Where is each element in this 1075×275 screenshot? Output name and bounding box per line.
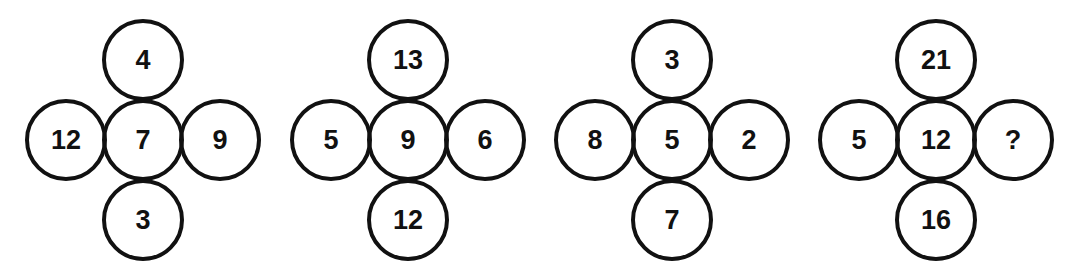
circle-right: 6 — [444, 99, 526, 181]
circle-value: 13 — [393, 45, 423, 76]
circle-value: 5 — [851, 125, 866, 156]
circle-value: 12 — [51, 125, 81, 156]
circle-bottom: 16 — [895, 179, 977, 261]
circle-value: 3 — [135, 205, 150, 236]
circle-right: 2 — [708, 99, 790, 181]
circle-value: 5 — [323, 125, 338, 156]
circle-left: 8 — [554, 99, 636, 181]
circle-right-unknown: ? — [972, 99, 1054, 181]
circle-left: 12 — [25, 99, 107, 181]
circle-value: 21 — [921, 45, 951, 76]
circle-value: 4 — [135, 45, 150, 76]
circle-value: 3 — [664, 45, 679, 76]
circle-value: 12 — [921, 125, 951, 156]
circle-top: 4 — [102, 19, 184, 101]
circle-value: 2 — [741, 125, 756, 156]
circle-right: 9 — [179, 99, 261, 181]
circle-value: 12 — [393, 205, 423, 236]
circle-value: 8 — [587, 125, 602, 156]
circle-value: 7 — [135, 125, 150, 156]
circle-left: 5 — [290, 99, 372, 181]
circle-top: 13 — [367, 19, 449, 101]
circle-center: 7 — [102, 99, 184, 181]
circle-center: 9 — [367, 99, 449, 181]
circle-value: 9 — [400, 125, 415, 156]
circle-bottom: 7 — [631, 179, 713, 261]
circle-value: 16 — [921, 205, 951, 236]
circle-bottom: 12 — [367, 179, 449, 261]
circle-center: 12 — [895, 99, 977, 181]
circle-bottom: 3 — [102, 179, 184, 261]
question-mark: ? — [1005, 125, 1022, 156]
circle-value: 6 — [477, 125, 492, 156]
circle-top: 21 — [895, 19, 977, 101]
puzzle-figure: 4 12 9 3 7 13 5 6 12 9 3 8 2 7 5 21 5 ? … — [0, 0, 1075, 275]
circle-left: 5 — [818, 99, 900, 181]
circle-value: 5 — [664, 125, 679, 156]
circle-value: 9 — [212, 125, 227, 156]
circle-value: 7 — [664, 205, 679, 236]
circle-center: 5 — [631, 99, 713, 181]
circle-top: 3 — [631, 19, 713, 101]
